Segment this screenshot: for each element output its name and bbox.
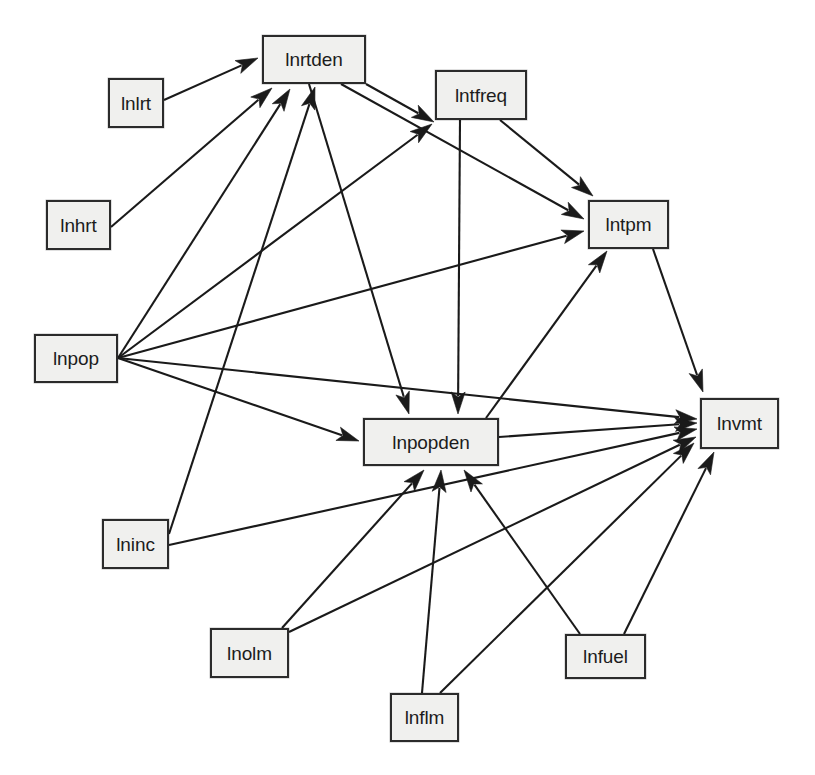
node-label-lninc: lninc bbox=[116, 535, 155, 554]
edge-line bbox=[309, 84, 404, 397]
node-lnfuel[interactable]: lnfuel bbox=[565, 634, 646, 679]
node-label-lnlrt: lnlrt bbox=[121, 94, 151, 113]
edge-lnfuel-to-lnpopden bbox=[464, 470, 580, 634]
arrowhead-icon bbox=[272, 89, 290, 111]
edge-lntpm-to-lnvmt bbox=[653, 249, 703, 392]
node-lnlrt[interactable]: lnlrt bbox=[108, 78, 164, 128]
node-label-lnhrt: lnhrt bbox=[60, 216, 96, 235]
edge-lnrtden-to-lnpopden bbox=[309, 84, 409, 414]
node-lntpm[interactable]: lntpm bbox=[588, 200, 669, 249]
edge-line bbox=[422, 488, 439, 693]
node-lnvmt[interactable]: lnvmt bbox=[700, 398, 779, 449]
arrowhead-icon bbox=[698, 452, 714, 475]
arrowhead-icon bbox=[411, 105, 434, 122]
node-lntfreq[interactable]: lntfreq bbox=[435, 70, 527, 120]
edge-line bbox=[624, 468, 706, 634]
node-label-lnpop: lnpop bbox=[53, 349, 99, 368]
node-label-lnpopden: lnpopden bbox=[392, 433, 469, 452]
node-lnpop[interactable]: lnpop bbox=[34, 334, 118, 383]
edge-lnpopden-to-lntpm bbox=[486, 251, 607, 418]
edge-lnlrt-to-lnrtden bbox=[164, 58, 258, 100]
node-lnflm[interactable]: lnflm bbox=[390, 693, 459, 742]
edges-group bbox=[111, 58, 714, 693]
edge-lnfuel-to-lnvmt bbox=[624, 452, 714, 634]
edge-line bbox=[499, 424, 679, 437]
node-lnpopden[interactable]: lnpopden bbox=[363, 418, 499, 466]
edge-line bbox=[164, 65, 242, 100]
arrowhead-icon bbox=[572, 177, 593, 196]
node-label-lntpm: lntpm bbox=[606, 215, 652, 234]
node-label-lnolm: lnolm bbox=[227, 644, 272, 663]
node-label-lntfreq: lntfreq bbox=[455, 86, 507, 105]
node-lnolm[interactable]: lnolm bbox=[210, 628, 289, 678]
edge-lnolm-to-lnvmt bbox=[289, 437, 696, 632]
node-lninc[interactable]: lninc bbox=[102, 519, 169, 569]
arrowhead-icon bbox=[588, 251, 607, 273]
edge-lnpopden-to-lnvmt bbox=[499, 418, 697, 437]
edge-lnflm-to-lnpopden bbox=[422, 470, 446, 693]
node-label-lnflm: lnflm bbox=[405, 708, 445, 727]
edge-lnpop-to-lnvmt bbox=[118, 358, 697, 424]
edge-line bbox=[653, 249, 697, 375]
edge-line bbox=[500, 120, 579, 185]
edge-lntfreq-to-lntpm bbox=[500, 120, 593, 196]
edge-line bbox=[366, 84, 418, 113]
node-lnrtden[interactable]: lnrtden bbox=[262, 35, 366, 84]
arrowhead-icon bbox=[464, 470, 482, 492]
edge-lnpop-to-lntfreq bbox=[118, 124, 432, 358]
edge-line bbox=[458, 120, 460, 396]
edge-lnolm-to-lnpopden bbox=[282, 470, 424, 628]
node-lnhrt[interactable]: lnhrt bbox=[46, 200, 111, 250]
edge-line bbox=[289, 445, 680, 632]
edge-line bbox=[474, 485, 580, 634]
node-label-lnrtden: lnrtden bbox=[285, 50, 342, 69]
arrowhead-icon bbox=[561, 202, 584, 219]
node-label-lnfuel: lnfuel bbox=[583, 647, 628, 666]
diagram-canvas: lnlrtlnrtdenlntfreqlnhrtlntpmlnpoplnvmtl… bbox=[0, 0, 815, 775]
edge-line bbox=[486, 266, 596, 418]
node-label-lnvmt: lnvmt bbox=[717, 414, 762, 433]
edge-line bbox=[118, 135, 418, 358]
